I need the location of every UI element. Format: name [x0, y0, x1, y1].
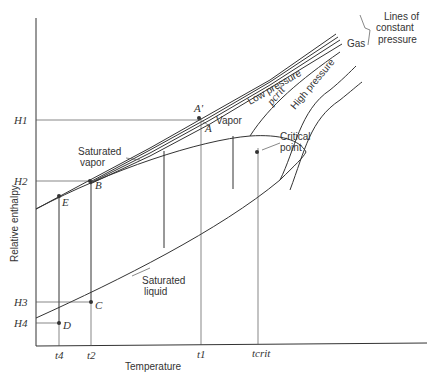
critical-label-2: point — [280, 142, 302, 153]
lines-label-1: Lines of — [384, 11, 419, 22]
x-axis-label: Temperature — [125, 361, 182, 372]
point-C-label: C — [95, 299, 103, 311]
point-E — [57, 194, 61, 198]
tcrit-label: tcrit — [252, 347, 271, 359]
point-A-prime-label: A' — [193, 102, 204, 114]
low-pressure-lines — [36, 34, 342, 209]
H1-label: H1 — [13, 114, 27, 126]
critical-point — [255, 150, 259, 154]
H3-label: H3 — [13, 296, 28, 308]
critical-label-1: Critical — [280, 131, 311, 142]
sat-liquid-label-2: liquid — [144, 286, 167, 297]
sat-liquid-label-1: Saturated — [142, 275, 185, 286]
y-axis-label: Relative enthalpy — [9, 185, 20, 262]
sat-vapor-label-1: Saturated — [78, 146, 121, 157]
t2-label: t2 — [87, 349, 96, 361]
gas-label: Gas — [347, 38, 365, 49]
enthalpy-temperature-diagram: Lines of constant pressure Gas Low press… — [0, 0, 427, 382]
point-B — [88, 179, 92, 183]
point-B-label: B — [95, 179, 102, 191]
point-A-prime — [197, 116, 201, 120]
t4-label: t4 — [55, 349, 64, 361]
lines-label-2: constant — [376, 22, 414, 33]
point-A-label: A — [204, 122, 212, 134]
vapor-label: Vapor — [216, 115, 243, 126]
high-pressure-label: High pressure — [288, 56, 337, 111]
saturated-vapor-curve — [36, 136, 306, 209]
t1-label: t1 — [197, 348, 206, 360]
point-C — [89, 300, 93, 304]
point-D — [57, 321, 61, 325]
x-axis — [36, 343, 427, 346]
point-D-label: D — [62, 319, 71, 331]
critical-leader — [262, 143, 280, 150]
lines-label-3: pressure — [378, 34, 417, 45]
H2-label: H2 — [13, 175, 28, 187]
H4-label: H4 — [13, 317, 28, 329]
sat-vapor-label-2: vapor — [80, 157, 106, 168]
saturated-liquid-curve — [36, 152, 306, 318]
point-E-label: E — [61, 196, 69, 208]
